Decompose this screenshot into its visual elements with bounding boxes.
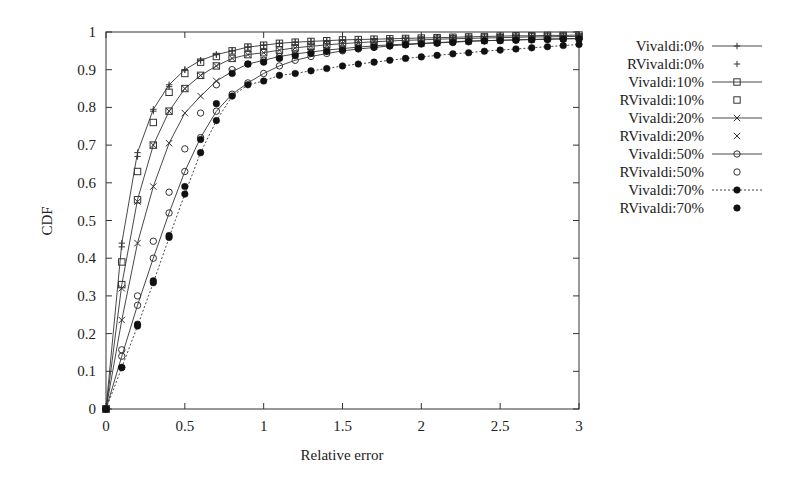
legend-label: Vivaldi:20%: [628, 110, 704, 126]
data-point-vivaldi-70: [308, 68, 315, 75]
x-axis-title: Relative error: [301, 447, 384, 463]
x-tick-label: 1.5: [333, 418, 352, 434]
data-point-rvivaldi-70: [150, 278, 157, 285]
cdf-chart: 00.10.20.30.40.50.60.70.80.91 00.511.522…: [0, 0, 796, 478]
data-point-rvivaldi-70: [260, 59, 267, 66]
data-point-rvivaldi-70: [528, 37, 535, 44]
data-point-vivaldi-70: [387, 57, 394, 64]
data-point-vivaldi-70: [465, 49, 472, 56]
data-point-vivaldi-70: [245, 81, 252, 88]
y-tick-label: 0.7: [77, 137, 96, 153]
data-point-rvivaldi-70: [481, 38, 488, 45]
data-point-rvivaldi-70: [402, 42, 409, 49]
y-tick-label: 0.9: [77, 62, 96, 78]
y-tick-label: 0.6: [77, 175, 96, 191]
x-tick-label: 0: [102, 418, 110, 434]
legend-marker: [734, 187, 741, 194]
data-point-rvivaldi-70: [197, 136, 204, 143]
y-axis-title: CDF: [39, 206, 55, 235]
data-point-rvivaldi-70: [118, 364, 125, 371]
data-point-vivaldi-70: [229, 93, 236, 100]
data-point-rvivaldi-70: [497, 37, 504, 44]
data-point-vivaldi-70: [434, 52, 441, 59]
data-point-rvivaldi-70: [371, 44, 378, 51]
data-point-vivaldi-70: [323, 65, 330, 72]
x-tick-label: 2.5: [491, 418, 510, 434]
legend-label: RVivaldi:70%: [619, 200, 704, 216]
data-point-vivaldi-70: [481, 48, 488, 55]
data-point-rvivaldi-70: [308, 50, 315, 57]
data-point-rvivaldi-70: [560, 36, 567, 43]
x-tick-label: 2: [418, 418, 426, 434]
legend-label: Vivaldi:0%: [636, 38, 704, 54]
data-point-rvivaldi-70: [292, 52, 299, 59]
data-point-rvivaldi-70: [434, 40, 441, 47]
x-tick-label: 1: [260, 418, 268, 434]
legend-label: Vivaldi:10%: [628, 74, 704, 90]
data-point-rvivaldi-70: [544, 36, 551, 43]
data-point-vivaldi-70: [292, 70, 299, 77]
data-point-rvivaldi-70: [418, 41, 425, 48]
data-point-rvivaldi-70: [103, 406, 110, 413]
data-point-rvivaldi-70: [513, 37, 520, 44]
data-point-vivaldi-70: [371, 59, 378, 66]
data-point-rvivaldi-70: [339, 47, 346, 54]
legend-label: RVivaldi:20%: [619, 128, 704, 144]
y-tick-label: 0.8: [77, 99, 96, 115]
data-point-rvivaldi-70: [166, 232, 173, 239]
data-point-rvivaldi-70: [387, 43, 394, 50]
data-point-vivaldi-70: [182, 191, 189, 198]
data-point-rvivaldi-70: [465, 39, 472, 46]
legend-label: RVivaldi:50%: [619, 164, 704, 180]
y-tick-label: 0.5: [77, 213, 96, 229]
data-point-rvivaldi-70: [213, 100, 220, 107]
data-point-vivaldi-70: [450, 51, 457, 58]
legend-label: Vivaldi:50%: [628, 146, 704, 162]
legend-marker: [734, 205, 741, 212]
data-point-vivaldi-70: [276, 72, 283, 79]
data-point-vivaldi-70: [544, 43, 551, 50]
data-point-vivaldi-70: [355, 61, 362, 68]
data-point-vivaldi-70: [402, 55, 409, 62]
y-tick-label: 0: [89, 401, 97, 417]
x-tick-label: 3: [575, 418, 583, 434]
data-point-rvivaldi-70: [134, 321, 141, 328]
data-point-vivaldi-70: [213, 117, 220, 124]
y-tick-label: 0.3: [77, 288, 96, 304]
y-tick-label: 0.2: [77, 326, 96, 342]
y-tick-label: 1: [89, 24, 97, 40]
y-tick-label: 0.4: [77, 250, 96, 266]
data-point-vivaldi-70: [339, 63, 346, 70]
legend-label: RVivaldi:10%: [619, 92, 704, 108]
data-point-vivaldi-70: [418, 54, 425, 61]
data-point-vivaldi-70: [197, 149, 204, 156]
data-point-rvivaldi-70: [323, 48, 330, 55]
data-point-rvivaldi-70: [245, 61, 252, 68]
data-point-vivaldi-70: [513, 46, 520, 53]
data-point-rvivaldi-70: [229, 70, 236, 77]
x-tick-label: 0.5: [175, 418, 194, 434]
data-point-vivaldi-70: [497, 47, 504, 54]
data-point-rvivaldi-70: [355, 45, 362, 52]
legend-label: RVivaldi:0%: [627, 56, 704, 72]
data-point-vivaldi-70: [560, 42, 567, 49]
data-point-rvivaldi-70: [576, 35, 583, 42]
y-tick-label: 0.1: [77, 363, 96, 379]
legend-label: Vivaldi:70%: [628, 182, 704, 198]
data-point-vivaldi-70: [260, 78, 267, 85]
data-point-rvivaldi-70: [276, 55, 283, 62]
data-point-rvivaldi-70: [182, 183, 189, 190]
data-point-vivaldi-70: [528, 45, 535, 52]
data-point-rvivaldi-70: [450, 39, 457, 46]
